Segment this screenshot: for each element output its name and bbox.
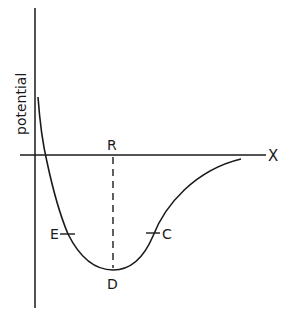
- point-c-label: C: [162, 226, 172, 242]
- point-d-label: D: [107, 276, 118, 292]
- x-axis-label: X: [268, 147, 278, 165]
- y-axis-label: potential: [13, 73, 29, 135]
- diagram-canvas: potential X R D E C: [0, 0, 300, 322]
- potential-curve: [38, 97, 241, 270]
- potential-energy-diagram: potential X R D E C: [0, 0, 300, 322]
- point-e-label: E: [50, 226, 59, 242]
- point-r-label: R: [107, 137, 117, 153]
